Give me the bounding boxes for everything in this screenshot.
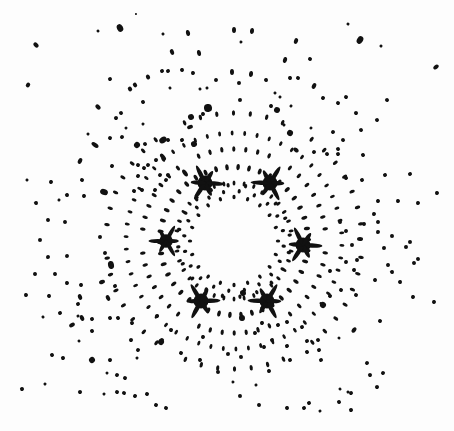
inner-cluster (176, 183, 292, 299)
star-reflection (187, 283, 221, 319)
diffraction-rings (104, 110, 364, 372)
star-reflections (148, 165, 322, 320)
star-reflection (289, 227, 323, 263)
laue-diffraction-image (0, 0, 454, 431)
diffraction-pattern (0, 0, 454, 431)
diffraction-spots (19, 13, 439, 413)
star-reflection (191, 165, 225, 201)
